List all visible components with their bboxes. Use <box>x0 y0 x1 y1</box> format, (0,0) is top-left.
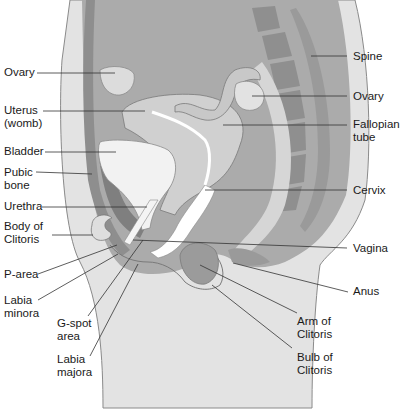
label-arm-of-clitoris: Arm of Clitoris <box>297 315 332 341</box>
label-vagina: Vagina <box>353 242 388 255</box>
label-ovary-left: Ovary <box>4 66 35 79</box>
label-g-spot-area: G-spot area <box>57 317 92 343</box>
label-cervix: Cervix <box>353 184 386 197</box>
label-bulb-of-clitoris: Bulb of Clitoris <box>297 351 333 377</box>
label-pubic-bone: Pubic bone <box>4 166 33 192</box>
label-body-of-clitoris: Body of Clitoris <box>4 220 43 246</box>
label-ovary-right: Ovary <box>353 90 384 103</box>
label-labia-minora: Labia minora <box>4 294 39 320</box>
label-p-area: P-area <box>4 268 39 281</box>
label-uterus: Uterus (womb) <box>4 104 42 130</box>
anatomy-illustration <box>0 0 401 411</box>
label-fallopian-tube: Fallopian tube <box>353 118 400 144</box>
label-urethra: Urethra <box>4 200 42 213</box>
label-spine: Spine <box>353 50 382 63</box>
label-anus: Anus <box>353 285 379 298</box>
label-bladder: Bladder <box>4 145 44 158</box>
label-labia-majora: Labia majora <box>57 353 92 379</box>
anatomy-diagram: Ovary Uterus (womb) Bladder Pubic bone U… <box>0 0 401 411</box>
